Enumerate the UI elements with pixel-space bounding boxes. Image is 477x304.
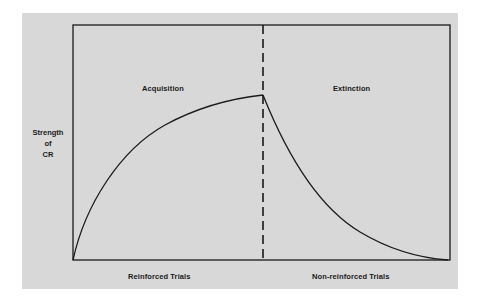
acquisition-curve: [73, 95, 263, 260]
y-axis-label-line1: Strength: [28, 127, 68, 138]
x-axis-label-reinforced: Reinforced Trials: [128, 272, 191, 281]
acquisition-label: Acquisition: [142, 84, 184, 93]
chart-canvas: [0, 0, 477, 304]
y-axis-label-line3: CR: [28, 149, 68, 160]
plot-frame: [73, 25, 450, 260]
extinction-curve: [263, 95, 448, 260]
y-axis-label-line2: of: [28, 138, 68, 149]
extinction-label: Extinction: [333, 84, 370, 93]
y-axis-label: Strength of CR: [28, 127, 68, 160]
x-axis-label-non-reinforced: Non-reinforced Trials: [312, 272, 390, 281]
